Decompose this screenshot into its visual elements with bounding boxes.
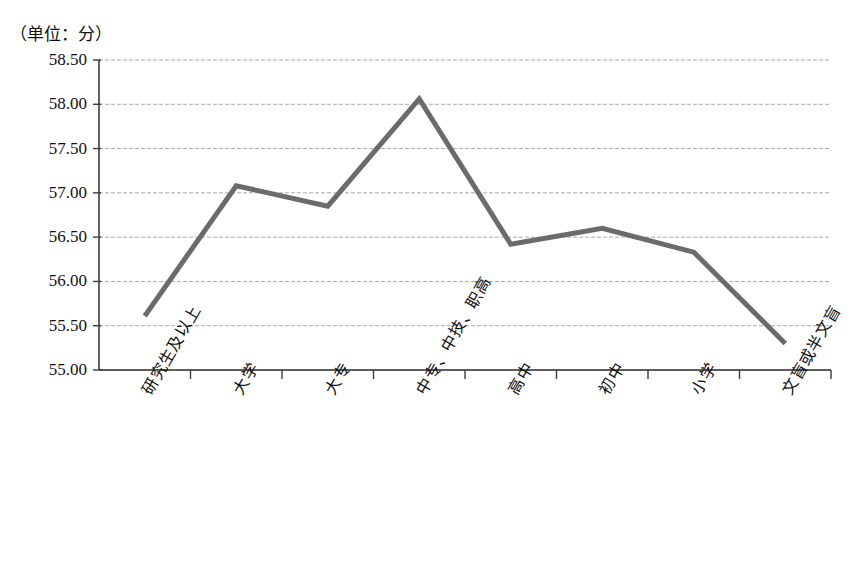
data-series-line xyxy=(145,99,786,343)
y-axis-tick-label: 57.50 xyxy=(8,139,87,159)
gridlines-group xyxy=(99,60,831,370)
y-axis-tick-label: 57.00 xyxy=(8,183,87,203)
line-chart: （单位：分） 研究生及以上大学大专中专、中技、职高高中初中小学文盲或半文盲 58… xyxy=(0,0,857,569)
y-axis-tick-label: 55.00 xyxy=(8,360,87,380)
chart-plot-area xyxy=(0,0,857,569)
y-axis-tick-label: 58.00 xyxy=(8,94,87,114)
series-polyline xyxy=(145,99,786,343)
axes-group xyxy=(99,60,831,370)
tick-marks-group xyxy=(93,60,831,379)
y-axis-tick-label: 55.50 xyxy=(8,316,87,336)
y-axis-tick-label: 56.00 xyxy=(8,271,87,291)
y-axis-tick-label: 56.50 xyxy=(8,227,87,247)
y-axis-tick-label: 58.50 xyxy=(8,50,87,70)
